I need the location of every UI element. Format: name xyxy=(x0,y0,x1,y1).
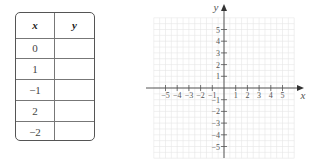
y-axis-arrow-icon xyxy=(221,4,227,11)
x-tick-label: 1 xyxy=(234,91,238,100)
y-tick-label: −3 xyxy=(211,119,220,128)
x-tick-label: 3 xyxy=(257,91,261,100)
y-tick-label: −5 xyxy=(211,143,220,152)
x-tick-label: −4 xyxy=(173,91,182,100)
x-tick-label: −3 xyxy=(185,91,194,100)
y-tick-label: −4 xyxy=(211,131,220,140)
y-tick-label: 2 xyxy=(216,61,220,70)
x-tick-label: 5 xyxy=(281,91,285,100)
y-tick-label: 1 xyxy=(216,72,220,81)
y-tick-label: 5 xyxy=(216,26,220,35)
y-tick-label: −2 xyxy=(211,107,220,116)
y-tick-label: −1 xyxy=(211,96,220,105)
x-tick-label: 4 xyxy=(269,91,273,100)
x-axis-label: x xyxy=(300,89,306,101)
y-tick-label: 3 xyxy=(216,49,220,58)
x-tick-label: −5 xyxy=(161,91,170,100)
y-tick-label: 4 xyxy=(216,37,220,46)
x-tick-label: −2 xyxy=(196,91,205,100)
y-axis-label: y xyxy=(213,1,219,13)
coordinate-plane[interactable]: −5−4−3−2−11234554321−1−2−3−4−5 x y xyxy=(0,0,322,168)
x-tick-label: 2 xyxy=(245,91,249,100)
